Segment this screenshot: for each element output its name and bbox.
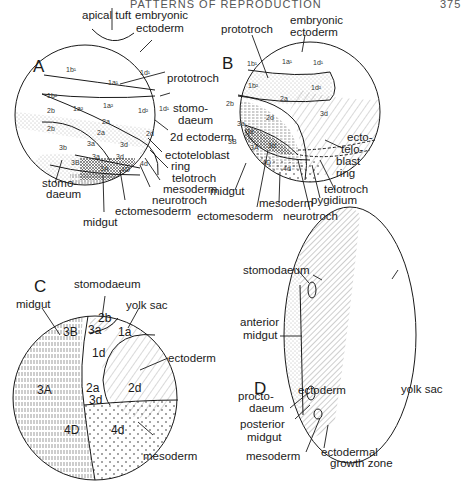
cell-label: 3e: [246, 128, 254, 135]
cell-label: 3B: [228, 138, 237, 145]
label-procto: procto-: [238, 390, 274, 402]
label-midgut: midgut: [16, 298, 51, 310]
panel-letter-b: B: [222, 54, 233, 73]
cell-label: 1d¹: [140, 69, 151, 76]
label-posterior-midgut: midgut: [247, 431, 282, 443]
ectoderm-region: [300, 200, 360, 440]
cell-label: 3a: [237, 120, 245, 127]
label-embryonic: embryonic: [290, 14, 343, 26]
label-ectoderm: ectoderm: [290, 26, 338, 38]
label-prototroch: prototroch: [167, 72, 219, 84]
label-ectomesoderm: ectomesoderm: [115, 205, 191, 217]
cell-label: 3a: [92, 153, 100, 160]
cell-label: 1d¹: [159, 105, 170, 112]
cell-label: 1a²: [73, 105, 84, 112]
cell-label: 1d²: [311, 84, 322, 91]
cell-label: 3d: [120, 141, 128, 148]
cell-label: 2d: [128, 381, 141, 395]
label-apical-tuft: apical tuft: [82, 9, 132, 21]
label-stomodaeum: stomodaeum: [243, 264, 309, 276]
cell-label: 3d: [268, 142, 276, 149]
cell-label: 1b¹: [66, 66, 77, 73]
label-anterior-midgut: midgut: [243, 329, 278, 341]
apical-tuft-cap: [92, 29, 134, 41]
label-stomodaeum-l2: daeum: [46, 188, 81, 200]
label-ectoderm: ectoderm: [168, 352, 216, 364]
cell-label: 1d²: [138, 107, 149, 114]
label-anterior: anterior: [240, 316, 279, 328]
cell-label: 2a: [97, 129, 105, 136]
label-yolk-sac: yolk sac: [401, 383, 443, 395]
label-mesoderm: mesoderm: [143, 450, 197, 462]
ectoderm-2d: [102, 322, 182, 418]
label-daeum: daeum: [249, 402, 284, 414]
label-mesoderm: mesoderm: [259, 197, 313, 209]
cell-label: 1b¹: [247, 60, 258, 67]
cell-label: 3A: [250, 144, 259, 151]
label-stomodaeum-r2: daeum: [178, 114, 213, 126]
cell-label: 2a: [102, 118, 110, 125]
cell-label: 1b²: [248, 82, 259, 89]
cell-label: 4D: [121, 166, 130, 173]
label-yolk-sac: yolk sac: [126, 299, 168, 311]
cell-label: 1a: [118, 325, 132, 339]
cell-label: 3d: [89, 393, 102, 407]
label-growth-zone: growth zone: [330, 457, 393, 469]
cell-label: 3B: [63, 325, 78, 339]
label-stomodaeum-r1: stomo-: [173, 102, 208, 114]
cell-label: 1a¹: [108, 79, 119, 86]
cell-label: 3A: [37, 383, 52, 397]
cell-label: 3d: [116, 153, 124, 160]
cell-label: 2b: [47, 125, 55, 132]
cell-label: 3a: [87, 140, 95, 147]
cell-label: 3b: [59, 144, 67, 151]
label-ectomesoderm: ectomesoderm: [197, 210, 273, 222]
label-ecto: ecto-: [347, 131, 373, 143]
label-blast: blast: [336, 155, 361, 167]
label-telo: telo-: [341, 143, 364, 155]
cell-label: 1a²: [103, 102, 114, 109]
panel-c: C stomodaeum midgut yolk sac ectoderm me…: [0, 277, 216, 485]
label-ring: ring: [171, 160, 190, 172]
label-prototroch: prototroch: [221, 23, 273, 35]
cell-label: 3B: [71, 159, 80, 166]
label-ectoderm: ectoderm: [298, 384, 346, 396]
label-ring: ring: [336, 167, 355, 179]
cell-label: 3A: [100, 165, 109, 172]
page-number: 375: [440, 0, 461, 10]
cell-label: 1d: [92, 346, 105, 360]
label-midgut: midgut: [83, 216, 118, 228]
cell-label: 4D: [64, 423, 80, 437]
cell-label: 1b²: [47, 92, 58, 99]
cell-label: 4d: [140, 160, 148, 167]
cell-label: 1a¹: [282, 58, 293, 65]
label-midgut: midgut: [210, 185, 245, 197]
cell-label: 4d: [111, 423, 124, 437]
label-embryonic: embryonic: [135, 9, 188, 21]
panel-d: D ectoderm yolk sac stomodaeum anterior …: [238, 200, 443, 470]
panel-b: B prototroch embryonic ectoderm ecto- te…: [197, 14, 385, 222]
cell-label: 4D: [262, 159, 271, 166]
cell-label: 2a: [280, 95, 288, 102]
cell-label: 4d: [283, 165, 291, 172]
label-pygidium: pygidium: [311, 194, 357, 206]
label-2d-ectoderm: 2d ectoderm: [170, 131, 234, 143]
panel-letter-c: C: [34, 277, 46, 296]
cell-label: 2b: [47, 107, 55, 114]
cell-label: 3a: [88, 323, 102, 337]
label-ectoderm: ectoderm: [136, 22, 184, 34]
cell-label: 2d: [266, 114, 274, 121]
panel-letter-a: A: [33, 57, 45, 76]
cell-label: 3d: [320, 110, 328, 117]
label-posterior: posterior: [240, 418, 285, 430]
cell-label: 2d: [146, 130, 154, 137]
label-stomodaeum: stomodaeum: [74, 278, 140, 290]
label-mesoderm: mesoderm: [246, 450, 300, 462]
panel-a: A apical tuft embryonic ectoderm prototr…: [0, 8, 234, 228]
cell-label: 2b: [226, 100, 234, 107]
embryo-fate-map-figure: PATTERNS OF REPRODUCTION 375 A apical: [0, 0, 462, 485]
cell-label: 1d¹: [313, 59, 324, 66]
